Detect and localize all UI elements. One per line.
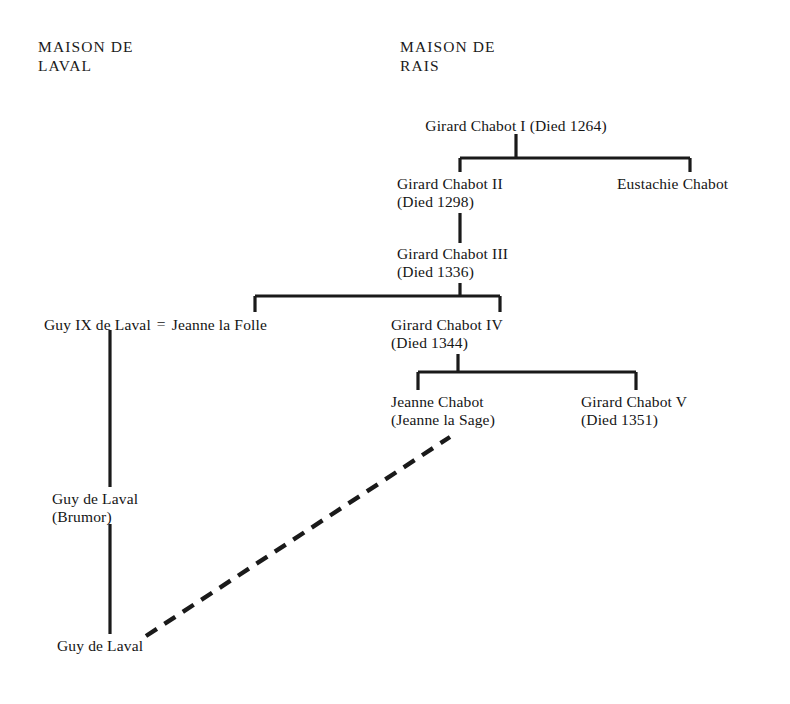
genealogical-chart-page: MAISON DE LAVAL MAISON DE RAIS Girard Ch… <box>0 0 790 704</box>
node-guy-de-laval: Guy de Laval <box>57 637 143 655</box>
node-girard-chabot-i-name: Girard Chabot I (Died 1264) <box>425 117 606 135</box>
dashed-connector <box>146 437 450 636</box>
marriage-guy-ix-jeanne-la-folle: Guy IX de Laval=Jeanne la Folle <box>44 316 267 334</box>
heading-laval-line2: LAVAL <box>38 57 134 76</box>
heading-maison-de-laval: MAISON DE LAVAL <box>38 38 134 76</box>
node-jeanne-chabot-name: Jeanne Chabot <box>391 393 495 411</box>
node-girard-chabot-iv: Girard Chabot IV (Died 1344) <box>391 316 503 353</box>
connector-jeanne-chabot-to-guy-de-laval <box>146 437 450 636</box>
node-girard-chabot-ii-name: Girard Chabot II <box>397 175 503 193</box>
node-eustachie-chabot: Eustachie Chabot <box>617 175 728 193</box>
heading-maison-de-rais: MAISON DE RAIS <box>400 38 496 76</box>
spouse-guy-ix-de-laval: Guy IX de Laval <box>44 316 151 333</box>
node-girard-chabot-iii: Girard Chabot III (Died 1336) <box>397 245 508 282</box>
node-girard-chabot-v-name: Girard Chabot V <box>581 393 687 411</box>
node-girard-chabot-i: Girard Chabot I (Died 1264) <box>425 117 606 135</box>
node-girard-chabot-iii-died: (Died 1336) <box>397 263 508 281</box>
node-girard-chabot-iv-name: Girard Chabot IV <box>391 316 503 334</box>
node-girard-chabot-ii: Girard Chabot II (Died 1298) <box>397 175 503 212</box>
node-eustachie-chabot-name: Eustachie Chabot <box>617 175 728 193</box>
node-jeanne-chabot-alias: (Jeanne la Sage) <box>391 411 495 429</box>
node-girard-chabot-v-died: (Died 1351) <box>581 411 687 429</box>
heading-rais-line2: RAIS <box>400 57 496 76</box>
node-guy-de-laval-brumor: Guy de Laval (Brumor) <box>52 490 138 527</box>
node-girard-chabot-iv-died: (Died 1344) <box>391 334 503 352</box>
heading-laval-line1: MAISON DE <box>38 38 134 57</box>
node-guy-de-laval-brumor-name: Guy de Laval <box>52 490 138 508</box>
node-girard-chabot-v: Girard Chabot V (Died 1351) <box>581 393 687 430</box>
node-girard-chabot-iii-name: Girard Chabot III <box>397 245 508 263</box>
node-girard-chabot-ii-died: (Died 1298) <box>397 193 503 211</box>
node-guy-de-laval-brumor-alias: (Brumor) <box>52 508 138 526</box>
marriage-equals-sign: = <box>151 315 172 333</box>
node-guy-de-laval-name: Guy de Laval <box>57 637 143 655</box>
spouse-jeanne-la-folle: Jeanne la Folle <box>172 316 267 333</box>
node-jeanne-chabot: Jeanne Chabot (Jeanne la Sage) <box>391 393 495 430</box>
heading-rais-line1: MAISON DE <box>400 38 496 57</box>
